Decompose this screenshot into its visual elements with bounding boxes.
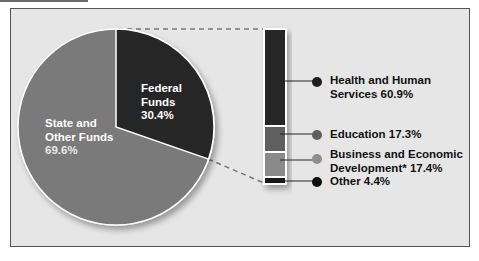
legend-business-line1: Business and Economic bbox=[330, 148, 463, 162]
legend-hhs: Health and Human Services 60.9% bbox=[330, 74, 431, 101]
legend-hhs-line1: Health and Human bbox=[330, 74, 431, 88]
legend-dot-hhs bbox=[312, 77, 322, 87]
federal-label-line1: Federal bbox=[141, 82, 182, 96]
federal-label-line2: Funds bbox=[141, 96, 182, 110]
state-label-line1: State and bbox=[45, 117, 113, 131]
bar-seg-education bbox=[265, 127, 285, 151]
federal-label-pct: 30.4% bbox=[141, 109, 182, 123]
bar-seg-hhs bbox=[265, 30, 285, 125]
legend-dot-other bbox=[312, 177, 322, 187]
legend-other: Other 4.4% bbox=[330, 175, 390, 189]
stacked-bar bbox=[263, 28, 287, 185]
legend-education-text: Education 17.3% bbox=[330, 128, 421, 142]
federal-label: Federal Funds 30.4% bbox=[141, 82, 182, 123]
connector-bottom bbox=[208, 159, 264, 183]
bar-seg-business bbox=[265, 153, 285, 176]
legend-education: Education 17.3% bbox=[330, 128, 421, 142]
state-label-line2: Other Funds bbox=[45, 131, 113, 145]
legend-dot-education bbox=[312, 130, 322, 140]
legend-business: Business and Economic Development* 17.4% bbox=[330, 148, 463, 175]
legend-dot-business bbox=[312, 154, 322, 164]
state-label: State and Other Funds 69.6% bbox=[45, 117, 113, 158]
legend-business-line2: Development* 17.4% bbox=[330, 162, 463, 176]
legend-other-text: Other 4.4% bbox=[330, 175, 390, 189]
state-label-pct: 69.6% bbox=[45, 144, 113, 158]
legend-hhs-line2: Services 60.9% bbox=[330, 88, 431, 102]
